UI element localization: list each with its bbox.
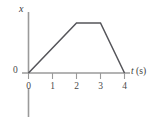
x-tick-label-4: 4 [117,82,133,92]
x-tick-label-3: 3 [93,82,109,92]
y-axis-label: x [19,4,23,14]
x-tick-label-2: 2 [69,82,85,92]
x-axis-label-unit: (s) [136,66,146,76]
x-tick-label-0: 0 [21,82,37,92]
chart-canvas [0,0,164,117]
data-series-position [29,23,125,73]
x-tick-label-1: 1 [45,82,61,92]
origin-label: 0 [13,66,18,76]
x-axis-label: t (s) [131,67,146,77]
position-time-chart: 0 x t (s) 0 1 2 3 4 [0,0,164,117]
